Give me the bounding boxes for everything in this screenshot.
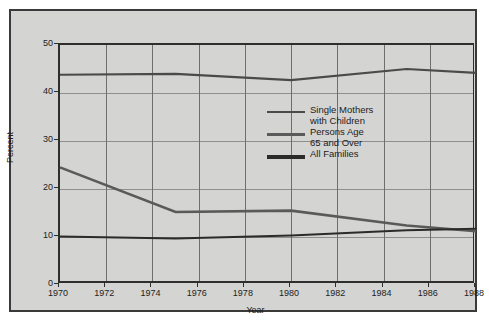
legend-line-swatch	[267, 133, 305, 136]
x-axis-tick-label: 1988	[464, 288, 484, 298]
x-axis-tick-label: 1984	[372, 288, 392, 298]
x-axis-tick-mark	[104, 283, 105, 287]
y-axis-tick-label: 30	[43, 134, 53, 144]
y-axis-tick-label: 40	[43, 86, 53, 96]
x-axis-tick-label: 1972	[94, 288, 114, 298]
legend-item-label: Persons Age 65 and Over	[310, 127, 364, 148]
y-axis-tick-label: 50	[43, 38, 53, 48]
chart-figure: 01020304050 Percent 19701972197419761978…	[0, 0, 489, 331]
x-axis-tick-label: 1970	[48, 288, 68, 298]
x-axis-tick-mark	[335, 283, 336, 287]
x-axis-tick-mark	[243, 283, 244, 287]
y-axis-tick-label: 10	[43, 230, 53, 240]
x-axis-tick-mark	[150, 283, 151, 287]
plot-area	[58, 43, 474, 283]
legend-item: Single Mothers with Children	[267, 105, 407, 126]
legend-item: All Families	[267, 149, 407, 160]
y-axis-tick-label: 0	[48, 278, 53, 288]
chart-legend: Single Mothers with ChildrenPersons Age …	[267, 105, 407, 161]
x-axis-tick-label: 1986	[418, 288, 438, 298]
legend-line-swatch	[267, 111, 305, 113]
data-series-line	[60, 167, 476, 231]
chart-panel: 01020304050 Percent 19701972197419761978…	[9, 9, 477, 312]
y-axis-label: Percent	[5, 132, 15, 163]
legend-item-label: All Families	[310, 149, 359, 160]
legend-item: Persons Age 65 and Over	[267, 127, 407, 148]
x-axis-tick-mark	[197, 283, 198, 287]
x-axis-tick-label: 1974	[140, 288, 160, 298]
legend-item-label: Single Mothers with Children	[310, 105, 373, 126]
x-axis-label: Year	[11, 305, 489, 315]
x-axis-tick-mark	[289, 283, 290, 287]
x-axis-tick-mark	[382, 283, 383, 287]
x-axis-tick-label: 1978	[233, 288, 253, 298]
legend-line-swatch	[267, 155, 305, 159]
x-axis-tick-labels: 1970197219741976197819801982198419861988	[11, 288, 489, 302]
x-axis-tick-mark	[474, 283, 475, 287]
x-axis-tick-mark	[58, 283, 59, 287]
x-axis-tick-label: 1980	[279, 288, 299, 298]
x-axis-tick-label: 1976	[187, 288, 207, 298]
data-lines	[60, 45, 476, 285]
data-series-line	[60, 229, 476, 239]
x-axis-tick-label: 1982	[325, 288, 345, 298]
x-axis-tick-mark	[428, 283, 429, 287]
y-axis-tick-label: 20	[43, 182, 53, 192]
y-axis-tick-labels: 01020304050	[27, 43, 53, 283]
data-series-line	[60, 69, 476, 80]
